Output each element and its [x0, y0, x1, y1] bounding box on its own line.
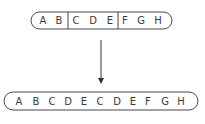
top-sequence: A B C D E F G H — [31, 12, 172, 29]
bottom-letter: F — [145, 96, 151, 107]
bottom-letter: E — [130, 96, 136, 107]
top-letter: D — [89, 15, 97, 26]
top-letter: A — [40, 15, 47, 26]
bottom-letter: H — [177, 96, 185, 107]
down-arrow-icon — [98, 40, 104, 84]
bottom-sequence: A B C D E C D E F G H — [4, 92, 198, 110]
bottom-letter: E — [81, 96, 87, 107]
bottom-letter: D — [113, 96, 121, 107]
top-letter: B — [56, 15, 63, 26]
bottom-letter: A — [16, 96, 23, 107]
duplication-diagram: A B C D E F G H A B C D E C D E F G H — [0, 0, 205, 124]
top-letter: F — [122, 15, 128, 26]
bottom-letter: G — [161, 96, 169, 107]
bottom-letter: C — [49, 96, 56, 107]
bottom-letter: C — [97, 96, 104, 107]
top-letter: E — [107, 15, 113, 26]
top-letter: H — [154, 15, 162, 26]
top-letter: G — [137, 15, 145, 26]
bottom-letter: D — [64, 96, 72, 107]
top-letter: C — [73, 15, 80, 26]
top-sequence-outline — [31, 12, 172, 29]
bottom-letter: B — [33, 96, 40, 107]
